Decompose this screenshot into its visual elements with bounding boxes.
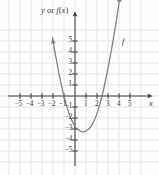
y-tick-label-neg2: −2 bbox=[65, 114, 73, 121]
y-axis-label: y or f(x) bbox=[41, 6, 68, 15]
y-tick-label-1: 1 bbox=[69, 81, 73, 88]
x-tick-label-neg2: −2 bbox=[48, 101, 56, 108]
y-tick-label-neg4: −4 bbox=[65, 136, 73, 143]
y-tick-label-4: 4 bbox=[69, 48, 73, 55]
x-tick-label-1: 1 bbox=[84, 101, 88, 108]
y-tick-label-neg1: −1 bbox=[65, 103, 73, 110]
y-tick-label-3: 3 bbox=[69, 59, 73, 66]
y-tick-label-neg5: −5 bbox=[65, 147, 73, 154]
x-tick-label-2: 2 bbox=[95, 101, 99, 108]
grid-lines bbox=[0, 0, 159, 175]
y-tick-label-2: 2 bbox=[69, 70, 73, 77]
x-tick-label-neg5: −5 bbox=[15, 101, 23, 108]
x-tick-label-3: 3 bbox=[106, 101, 110, 108]
x-tick-label-neg4: −4 bbox=[26, 101, 34, 108]
x-tick-label-4: 4 bbox=[117, 101, 121, 108]
curve-label: f bbox=[122, 38, 124, 46]
axes bbox=[8, 11, 153, 166]
x-tick-label-neg3: −3 bbox=[37, 101, 45, 108]
y-tick-label-5: 5 bbox=[69, 37, 73, 44]
x-axis-label: x bbox=[149, 99, 153, 108]
coordinate-plane bbox=[0, 0, 159, 175]
graph-figure: −5−4−3−2−11234554321−1−2−3−4−5 y or f(x)… bbox=[0, 0, 159, 175]
y-tick-label-neg3: −3 bbox=[65, 125, 73, 132]
x-tick-label-5: 5 bbox=[128, 101, 132, 108]
